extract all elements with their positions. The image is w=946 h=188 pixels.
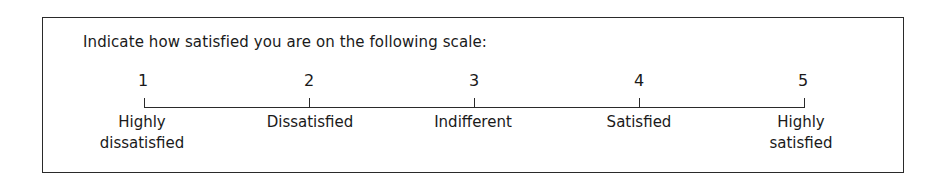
scale-tick-2: [309, 98, 310, 107]
scale-value-3[interactable]: 3: [469, 71, 479, 90]
scale-value-4[interactable]: 4: [634, 71, 644, 90]
scale-label-4: Satisfied: [607, 112, 672, 133]
scale-label-2: Dissatisfied: [267, 112, 354, 133]
scale-prompt: Indicate how satisfied you are on the fo…: [83, 33, 487, 51]
scale-label-3: Indifferent: [434, 112, 512, 133]
scale-label-5: Highly satisfied: [769, 112, 832, 154]
scale-value-5[interactable]: 5: [798, 71, 808, 90]
scale-value-2[interactable]: 2: [304, 71, 314, 90]
scale-tick-5: [804, 98, 805, 107]
scale-tick-1: [144, 98, 145, 107]
scale-tick-3: [474, 98, 475, 107]
scale-label-1: Highly dissatisfied: [100, 112, 185, 154]
scale-line: [144, 107, 805, 108]
scale-tick-4: [639, 98, 640, 107]
scale-value-1[interactable]: 1: [138, 71, 148, 90]
